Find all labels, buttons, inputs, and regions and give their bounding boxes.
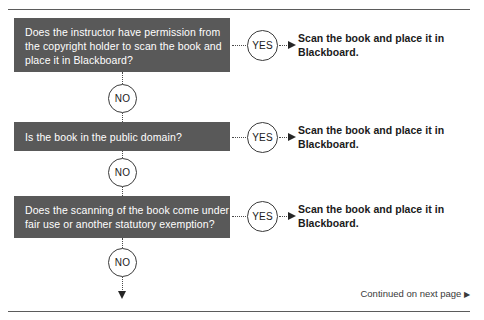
yes-node-1: YES: [247, 30, 278, 61]
arrowhead-down-icon: [118, 291, 126, 299]
connector-no2-to-box3: [122, 187, 123, 196]
connector-box1-to-yes: [232, 45, 246, 46]
connector-no3-to-next-page: [122, 277, 123, 292]
arrowhead-right-icon: [288, 41, 296, 49]
arrowhead-right-icon: [288, 133, 296, 141]
question-line: the copyright holder to scan the book an…: [25, 39, 220, 53]
continued-next-page-note: Continued on next page ▶: [360, 288, 470, 299]
connector-box2-to-no2: [122, 151, 123, 158]
bottom-divider: [8, 311, 470, 312]
question-box-3: Does the scanning of the book come under…: [14, 196, 230, 238]
outcome-line: Blackboard.: [298, 137, 474, 151]
question-line: fair use or another statutory exemption?: [25, 217, 220, 231]
outcome-line: Blackboard.: [298, 216, 474, 230]
outcome-text-2: Scan the book and place it in Blackboard…: [298, 123, 474, 151]
connector-box3-to-yes: [232, 216, 246, 217]
triangle-right-icon: ▶: [464, 290, 470, 299]
question-line: Is the book in the public domain?: [25, 130, 220, 144]
top-divider: [8, 9, 470, 10]
outcome-text-3: Scan the book and place it in Blackboard…: [298, 202, 474, 230]
connector-box2-to-yes: [232, 137, 246, 138]
outcome-line: Blackboard.: [298, 45, 474, 59]
connector-no1-to-box2: [122, 113, 123, 122]
question-line: Does the scanning of the book come under: [25, 203, 220, 217]
outcome-line: Scan the book and place it in: [298, 202, 474, 216]
yes-node-2: YES: [247, 122, 278, 153]
connector-box3-to-no3: [122, 238, 123, 248]
connector-box1-to-no1: [122, 72, 123, 84]
no-node-2: NO: [108, 158, 137, 187]
question-line: Does the instructor have permission from: [25, 25, 220, 39]
question-box-1: Does the instructor have permission from…: [14, 18, 230, 72]
outcome-text-1: Scan the book and place it in Blackboard…: [298, 31, 474, 59]
outcome-line: Scan the book and place it in: [298, 31, 474, 45]
question-box-2: Is the book in the public domain?: [14, 122, 230, 151]
continued-label: Continued on next page: [360, 288, 461, 299]
flowchart-page: Does the instructor have permission from…: [0, 0, 484, 320]
no-node-3: NO: [108, 248, 137, 277]
question-line: place it in Blackboard?: [25, 53, 220, 67]
no-node-1: NO: [108, 84, 137, 113]
yes-node-3: YES: [247, 201, 278, 232]
outcome-line: Scan the book and place it in: [298, 123, 474, 137]
arrowhead-right-icon: [288, 212, 296, 220]
